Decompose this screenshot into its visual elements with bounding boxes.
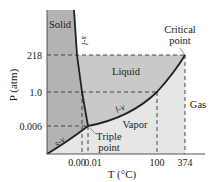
triple-point-label-2: point xyxy=(98,142,120,153)
x-tick-001: 0.01 xyxy=(84,157,102,168)
region-label-liquid: Liquid xyxy=(112,66,141,77)
region-label-gas: Gas xyxy=(190,99,206,110)
y-tick-1: 1.0 xyxy=(30,87,43,98)
phase-diagram: 218 1.0 0.006 0.00 0.01 100 374 P (atm) … xyxy=(0,0,215,182)
y-axis-title: P (atm) xyxy=(7,69,20,102)
critical-point-label-2: point xyxy=(169,35,191,46)
x-tick-100: 100 xyxy=(150,157,165,168)
critical-point-leader xyxy=(180,48,185,55)
x-tick-374: 374 xyxy=(178,157,193,168)
x-axis-title: T (°C) xyxy=(108,168,137,181)
y-tick-0006: 0.006 xyxy=(20,121,43,132)
curve-label-s-l: s-l xyxy=(80,36,90,45)
region-label-vapor: Vapor xyxy=(122,119,148,130)
triple-point-label-1: Triple xyxy=(96,131,122,142)
region-label-solid: Solid xyxy=(49,19,72,30)
x-tick-000: 0.00 xyxy=(68,157,86,168)
y-tick-218: 218 xyxy=(27,50,42,61)
critical-point-label-1: Critical xyxy=(164,24,196,35)
